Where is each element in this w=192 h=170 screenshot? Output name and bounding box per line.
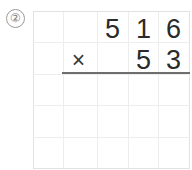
grid-vline-1 xyxy=(63,11,64,169)
grid-vline-0 xyxy=(33,11,34,169)
answer-rule xyxy=(62,72,190,74)
grid-hline-3 xyxy=(33,105,190,106)
grid-vline-5 xyxy=(189,11,190,169)
worksheet-canvas: ② 5 1 6 × 5 3 xyxy=(0,0,192,170)
grid-hline-0 xyxy=(33,11,190,12)
calculation-grid: 5 1 6 × 5 3 xyxy=(33,11,190,169)
multiplicand-digit-ones: 6 xyxy=(158,14,189,45)
grid-hline-5 xyxy=(33,168,190,169)
multiplicand-digit-hundreds: 5 xyxy=(97,14,128,45)
multiplicand-digit-tens: 1 xyxy=(128,14,159,45)
problem-number-marker: ② xyxy=(6,9,25,28)
grid-hline-4 xyxy=(33,137,190,138)
